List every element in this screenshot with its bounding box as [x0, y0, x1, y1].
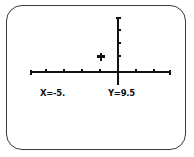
trace-x-readout: X=-5. [40, 88, 65, 98]
graph-plot-area[interactable]: X=-5. Y=9.5 [7, 6, 186, 150]
coordinate-plane-graphic [7, 6, 186, 150]
trace-y-readout: Y=9.5 [108, 88, 135, 98]
y-axis-group [116, 18, 122, 85]
calculator-screen: X=-5. Y=9.5 [6, 5, 186, 150]
trace-readout-row: X=-5. Y=9.5 [7, 86, 186, 102]
trace-cursor-icon [97, 53, 105, 61]
x-axis-group [31, 69, 170, 74]
